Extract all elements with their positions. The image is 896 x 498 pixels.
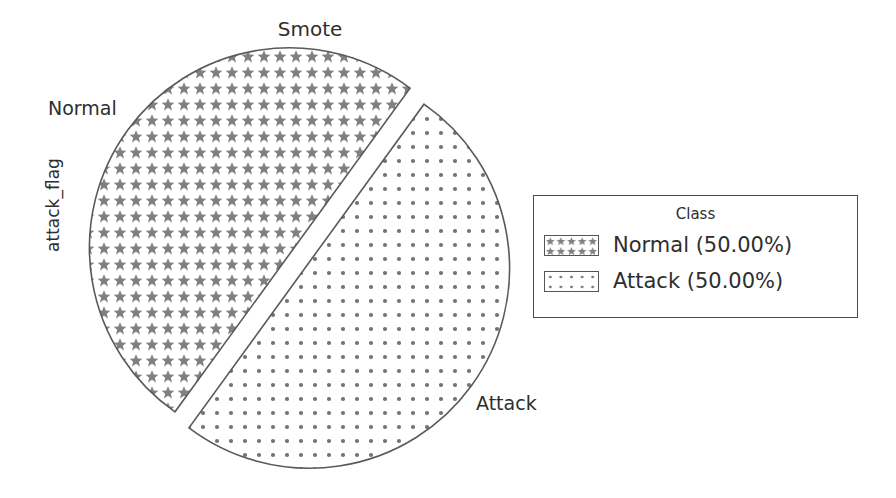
legend-item-normal[interactable]: Normal (50.00%) (544, 227, 847, 263)
legend-entries: Normal (50.00%) Attack (50.00%) (534, 227, 857, 299)
legend-title: Class (534, 205, 857, 223)
legend-label-attack: Attack (50.00%) (613, 269, 783, 294)
legend-item-attack[interactable]: Attack (50.00%) (544, 263, 847, 299)
legend-swatch-star-icon (544, 235, 599, 256)
wedge-label-normal: Normal (48, 97, 117, 119)
pie-chart-figure: Smote attack_flag (0, 0, 896, 498)
legend-swatch-dot-icon (544, 271, 599, 292)
wedge-label-attack: Attack (476, 392, 537, 414)
legend: Class Normal (50.00%) Attack (50.00%) (533, 195, 858, 318)
legend-label-normal: Normal (50.00%) (613, 233, 792, 258)
